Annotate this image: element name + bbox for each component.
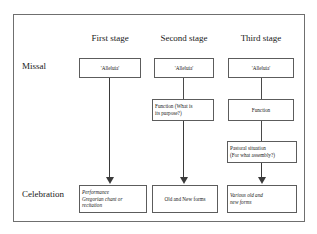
connector-second-stage-missal-to-function bbox=[183, 78, 184, 99]
node-third-stage-pastoral-situation: Pastoral situation(For what assembly?) bbox=[227, 141, 297, 163]
node-second-stage-celebration-label: Old and New forms bbox=[155, 196, 215, 203]
node-third-stage-missal: 'Alleluia' bbox=[228, 58, 294, 78]
arrow-third-stage-pastoral-to-celebration-head bbox=[258, 177, 266, 184]
column-header-second-stage: Second stage bbox=[146, 33, 222, 44]
node-second-stage-missal: 'Alleluia' bbox=[154, 58, 214, 78]
node-third-stage-pastoral-situation-label: Pastoral situation(For what assembly?) bbox=[230, 145, 294, 158]
node-third-stage-missal-label: 'Alleluia' bbox=[231, 65, 291, 72]
column-header-third-stage-label: Third stage bbox=[241, 33, 282, 43]
connector-third-stage-function-to-pastoral bbox=[261, 121, 262, 141]
flowchart-figure: First stage Second stage Third stage Mis… bbox=[0, 0, 317, 234]
column-header-third-stage: Third stage bbox=[224, 33, 298, 44]
node-third-stage-function: Function bbox=[228, 99, 294, 121]
row-label-missal-text: Missal bbox=[22, 61, 46, 71]
arrow-second-stage-function-to-celebration-shaft bbox=[183, 121, 184, 178]
arrow-first-stage-missal-to-celebration-head bbox=[106, 177, 114, 184]
node-second-stage-celebration: Old and New forms bbox=[152, 185, 218, 213]
column-header-first-stage-label: First stage bbox=[91, 33, 128, 43]
node-first-stage-celebration: PerformanceGregorian chant orrecitation bbox=[79, 185, 147, 213]
arrow-second-stage-function-to-celebration-head bbox=[180, 177, 188, 184]
row-label-celebration-text: Celebration bbox=[22, 189, 64, 199]
node-first-stage-missal: 'Alleluia' bbox=[79, 58, 141, 78]
node-third-stage-celebration: Various old andnew forms bbox=[227, 185, 297, 213]
node-first-stage-celebration-label: PerformanceGregorian chant orrecitation bbox=[82, 189, 144, 209]
node-second-stage-function: Function (What isits purpose?) bbox=[152, 99, 214, 121]
node-first-stage-missal-label: 'Alleluia' bbox=[82, 65, 138, 72]
arrow-third-stage-pastoral-to-celebration-shaft bbox=[261, 163, 262, 178]
arrow-first-stage-missal-to-celebration-shaft bbox=[109, 78, 110, 178]
node-second-stage-function-label: Function (What isits purpose?) bbox=[155, 103, 211, 116]
column-header-first-stage: First stage bbox=[74, 33, 146, 44]
node-second-stage-missal-label: 'Alleluia' bbox=[157, 65, 211, 72]
row-label-missal: Missal bbox=[22, 61, 46, 72]
connector-third-stage-missal-to-function bbox=[261, 78, 262, 99]
node-third-stage-celebration-label: Various old andnew forms bbox=[230, 192, 294, 205]
row-label-celebration: Celebration bbox=[22, 189, 64, 200]
node-third-stage-function-label: Function bbox=[231, 107, 291, 114]
column-header-second-stage-label: Second stage bbox=[160, 33, 207, 43]
